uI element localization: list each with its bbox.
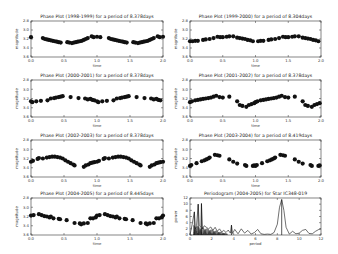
data-point [152,36,156,40]
panel-title: Phase Plot (2001-2002) for a period of 8… [199,73,313,78]
panel-title: Periodogram (2004-2005) for Star IC348-0… [204,191,307,196]
x-tick-label: 0.5 [61,58,68,63]
data-point [293,95,297,99]
data-point [221,95,225,99]
panel-title: Phase Plot (2000-2001) for a period of 8… [40,73,154,78]
y-tick-label: 3.6 [23,174,30,179]
data-point [231,34,235,38]
x-axis-label: time [251,183,260,188]
data-point [227,157,231,161]
x-tick-label: 1.5 [127,236,134,241]
x-axis-label: period [249,241,262,246]
plot-frame [190,198,321,235]
y-tick-label: 3.6 [182,174,189,179]
data-point [286,35,290,39]
data-point [310,164,314,168]
y-tick-label: 2 [186,226,189,231]
y-tick-label: 12 [183,195,188,200]
x-tick-label: 1.5 [127,58,134,63]
y-tick-label: 2.8 [182,77,189,82]
y-tick-label: 2.8 [23,18,30,23]
panel-8: Periodogram (2004-2005) for Star IC348-0… [173,191,324,246]
y-tick-label: 10 [183,201,188,206]
panel-1: Phase Plot (1998-1999) for a period of 8… [14,14,167,68]
y-tick-label: 4 [186,220,189,225]
periodogram-line [190,200,321,235]
data-point [251,39,255,43]
data-point [58,217,62,221]
data-point [97,159,101,163]
data-point [98,213,102,217]
data-point [61,94,65,98]
panel-4: Phase Plot (2001-2002) for a period of 8… [173,73,325,128]
y-tick-label: 3.4 [23,165,30,170]
data-point [260,161,264,165]
data-point [318,101,322,105]
data-point [189,163,193,167]
y-tick-label: 3.0 [23,27,30,32]
x-tick-label: 2.0 [160,178,167,183]
data-point [117,216,121,220]
x-tick-label: 2.0 [318,58,325,63]
data-point [59,41,63,45]
data-point [301,99,305,103]
panel-title: Phase Plot (2004-2005) for a period of 8… [40,191,154,196]
y-axis-label: magnitude [173,148,178,169]
data-point [86,221,90,225]
panel-3: Phase Plot (2000-2001) for a period of 8… [14,73,167,128]
data-point [297,34,301,38]
x-tick-label: 2.0 [318,118,325,123]
data-point [269,37,273,41]
x-axis-label: time [93,183,102,188]
y-tick-label: 3.4 [182,45,189,50]
y-axis-label: magnitude [14,88,19,109]
data-point [39,99,43,103]
data-point [221,35,225,39]
x-axis-label: time [93,123,102,128]
data-point [32,213,36,217]
x-tick-label: 0.5 [61,118,68,123]
x-tick-label: 8 [276,236,279,241]
x-tick-label: 4 [232,236,235,241]
x-tick-label: 0.5 [220,178,227,183]
y-tick-label: 3.6 [23,114,30,119]
x-tick-label: 0.5 [220,118,227,123]
y-tick-label: 3.4 [23,223,30,228]
y-tick-label: 3.6 [23,54,30,59]
data-point [69,95,73,99]
y-tick-label: 3.2 [23,96,30,101]
data-point [273,37,277,41]
data-point [158,98,162,102]
data-point [82,221,86,225]
data-point [31,159,35,163]
y-tick-label: 3.4 [182,165,189,170]
y-tick-label: 3.4 [23,45,30,50]
data-point [293,34,297,38]
data-point [244,164,248,168]
x-tick-label: 2 [211,236,214,241]
data-point [152,221,156,225]
x-tick-label: 0 [189,236,192,241]
data-point [37,156,41,160]
data-point [286,95,290,99]
data-point [100,99,104,103]
data-point [194,161,198,165]
y-tick-label: 3.6 [182,114,189,119]
data-point [148,221,152,225]
y-tick-label: 3.0 [23,147,30,152]
y-tick-label: 3.2 [23,36,30,41]
y-tick-label: 2.8 [23,77,30,82]
data-point [235,99,239,103]
panel-title: Phase Plot (1999-2000) for a period of 8… [199,14,313,19]
panel-5: Phase Plot (2002-2003) for a period of 8… [14,133,167,188]
data-point [161,35,165,39]
y-tick-label: 3.0 [182,87,189,92]
data-point [208,155,212,159]
data-point [297,160,301,164]
data-point [107,156,111,160]
x-axis-label: time [93,63,102,68]
y-tick-label: 3.2 [182,156,189,161]
x-tick-label: 0.5 [61,236,68,241]
data-point [235,161,239,165]
x-tick-label: 2.0 [160,118,167,123]
